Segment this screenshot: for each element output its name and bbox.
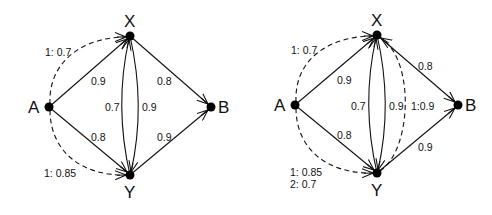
node-label-b: B [218, 98, 229, 117]
node-label-x: X [371, 11, 382, 30]
edge-x-y [130, 36, 138, 172]
edge-label-x-y: 0.9 [142, 101, 157, 113]
node-label-b: B [465, 96, 476, 115]
node-b [454, 101, 463, 110]
node-label-y: Y [124, 183, 135, 202]
node-label-a: A [28, 98, 40, 117]
edge-y-x [369, 38, 377, 173]
edge-x-b [130, 36, 208, 104]
edge-label-y-b: 0.9 [418, 141, 433, 153]
edge-label-y-b: 0.9 [157, 131, 172, 143]
edge-label-dashed-a-y-2: 2: 0.7 [290, 178, 316, 190]
node-a [45, 103, 54, 112]
edge-label-x-b: 0.8 [418, 60, 433, 72]
right-diagram: A X Y B 0.9 0.8 0.8 0.9 0.7 0.9 1: 0.7 1… [274, 11, 476, 200]
node-b [207, 103, 216, 112]
node-x [373, 31, 382, 40]
edge-label-dashed-a-y: 1: 0.85 [290, 166, 322, 178]
edge-label-dashed-a-x: 1: 0.7 [291, 44, 317, 56]
edge-label-y-x: 0.7 [351, 100, 366, 112]
edge-label-dashed-a-x: 1: 0.7 [45, 46, 71, 58]
dashed-edge-a-y [50, 110, 126, 175]
node-x [126, 32, 135, 41]
node-y [126, 171, 135, 180]
edge-label-x-y: 0.9 [389, 100, 404, 112]
edge-a-y [295, 105, 374, 170]
node-y [373, 169, 382, 178]
node-label-x: X [124, 12, 135, 31]
dashed-edge-a-y [296, 108, 373, 173]
edge-label-a-y: 0.8 [337, 129, 352, 141]
edge-x-y [377, 35, 385, 170]
diagram-canvas: A X Y B 0.9 0.8 0.8 0.9 0.7 0.9 1: 0.7 1… [0, 0, 492, 215]
node-label-y: Y [371, 181, 382, 200]
edge-label-dashed-y-x: 1:0.9 [411, 100, 435, 112]
edge-y-x [122, 39, 130, 175]
edge-a-y [49, 107, 127, 172]
edge-label-y-x: 0.7 [105, 101, 120, 113]
left-diagram: A X Y B 0.9 0.8 0.8 0.9 0.7 0.9 1: 0.7 1… [28, 12, 229, 202]
edge-label-x-b: 0.8 [157, 75, 172, 87]
node-label-a: A [274, 96, 286, 115]
edge-label-a-y: 0.8 [91, 131, 106, 143]
edge-label-a-x: 0.9 [337, 74, 352, 86]
node-a [291, 101, 300, 110]
edge-label-dashed-a-y: 1: 0.85 [44, 167, 76, 179]
edge-label-a-x: 0.9 [91, 75, 106, 87]
